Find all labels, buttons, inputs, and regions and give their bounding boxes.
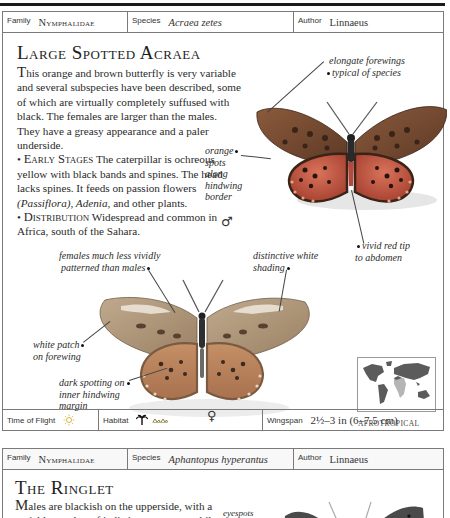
species-cell: Species Aphantopus hyperantus [128,449,294,469]
caption-dark-spotting: dark spotting on inner hindwing margin [59,377,132,412]
species-label: Species [132,16,160,25]
grassland-icon [152,416,168,424]
author-value: Linnaeus [330,454,369,465]
family-value: Nymphalidae [39,17,95,28]
family-cell: Family Nymphalidae [3,12,128,32]
author-value: Linnaeus [330,17,369,28]
author-label: Author [298,453,322,462]
entry-header: Family Nymphalidae Species Acraea zetes … [3,12,443,33]
drop-cap: M [15,497,28,513]
wingspan-value: 2½–3 in (6–7.5 cm) [311,414,398,426]
habitat-label: Habitat [103,416,128,425]
palm-tree-icon [136,414,148,426]
species-entry-acraea-zetes: Family Nymphalidae Species Acraea zetes … [2,11,444,431]
caption-orange-spots: orange spots along hindwing border [205,145,242,203]
drop-cap: T [17,64,26,80]
world-map-icon [358,358,435,411]
caption-white-patch: white patch on forewing [33,339,86,362]
caption-eyespots: eyespots [223,508,254,518]
time-of-flight-cell: Time of Flight [3,410,99,430]
species-entry-aphantopus-hyperantus: Family Nymphalidae Species Aphantopus hy… [2,448,444,518]
entry-header: Family Nymphalidae Species Aphantopus hy… [3,449,443,470]
family-value: Nymphalidae [39,454,95,465]
page-top-rule [0,3,445,6]
wingspan-label: Wingspan [267,416,303,425]
species-value: Acraea zetes [168,17,221,28]
sun-icon [63,414,75,426]
species-value: Aphantopus hyperantus [168,454,267,465]
male-butterfly-illustration [255,82,447,222]
species-title: The Ringlet [15,477,114,499]
distribution-paragraph: • Distribution Widespread and common in … [17,210,242,239]
caption-females-less-vivid: females much less vividly patterned than… [59,250,160,273]
family-label: Family [7,16,31,25]
species-description: Males are blackish on the upperside, wit… [15,499,235,518]
early-stages-heading: Early Stages [24,152,94,166]
time-of-flight-label: Time of Flight [7,416,55,425]
caption-elongate-forewings: elongate forewings typical of species [329,55,405,78]
intro-paragraph: This orange and brown butterfly is very … [17,65,242,152]
ringlet-butterfly-illustration [279,494,429,518]
author-label: Author [298,16,322,25]
family-label: Family [7,453,31,462]
habitat-cell: Habitat [99,410,263,430]
author-cell: Author Linnaeus [294,12,443,32]
entry-footer: Time of Flight Habitat [3,409,443,430]
species-cell: Species Acraea zetes [128,12,294,32]
distribution-heading: Distribution [24,210,90,224]
species-title: Large Spotted Acraea [17,42,201,64]
family-cell: Family Nymphalidae [3,449,128,469]
species-label: Species [132,453,160,462]
distribution-map [357,357,436,412]
male-symbol: ♂ [221,214,233,229]
author-cell: Author Linnaeus [294,449,443,469]
wingspan-cell: Wingspan 2½–3 in (6–7.5 cm) [263,410,443,430]
